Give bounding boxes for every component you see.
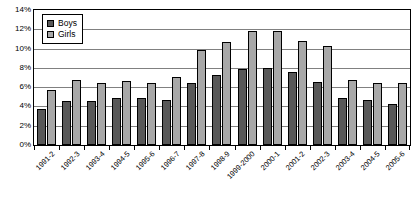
bar-girls-1997-8 xyxy=(197,50,206,145)
legend-label-girls: Girls xyxy=(58,30,75,39)
bar-group xyxy=(184,10,209,145)
y-axis-labels: 14%12%10%8%6%4%2%0% xyxy=(0,9,31,146)
bar-group xyxy=(310,10,335,145)
bar-group xyxy=(385,10,410,145)
bar-group xyxy=(285,10,310,145)
bar-boys-2004-5 xyxy=(363,100,372,145)
bar-girls-2005-6 xyxy=(398,83,407,145)
bar-group xyxy=(109,10,134,145)
bar-group xyxy=(260,10,285,145)
bar-boys-1993-4 xyxy=(87,101,96,145)
bar-girls-1998-9 xyxy=(222,42,231,145)
bar-girls-1993-4 xyxy=(97,83,106,145)
bar-group xyxy=(360,10,385,145)
bar-boys-1997-8 xyxy=(187,83,196,145)
y-axis-tick-label: 8% xyxy=(3,64,31,72)
bar-boys-2002-3 xyxy=(313,82,322,145)
bar-group xyxy=(335,10,360,145)
x-axis-labels: 1991-21992-31993-41994-51995-61996-71997… xyxy=(34,150,410,203)
bar-group xyxy=(134,10,159,145)
bar-girls-1994-5 xyxy=(122,81,131,145)
bar-group xyxy=(159,10,184,145)
bar-group xyxy=(84,10,109,145)
y-axis-tick-label: 14% xyxy=(3,6,31,14)
y-axis-tick-label: 6% xyxy=(3,83,31,91)
bar-girls-1995-6 xyxy=(147,83,156,145)
chart-legend: Boys Girls xyxy=(42,14,83,44)
bar-group xyxy=(235,10,260,145)
bar-boys-1999-2000 xyxy=(238,69,247,145)
bar-boys-1996-7 xyxy=(162,100,171,145)
bars-container xyxy=(34,10,410,145)
x-axis-tick-label: 1991-2 xyxy=(0,150,56,203)
legend-item-girls: Girls xyxy=(47,29,77,40)
bar-girls-1992-3 xyxy=(72,80,81,145)
bar-girls-1991-2 xyxy=(47,90,56,145)
bar-girls-1996-7 xyxy=(172,77,181,145)
bar-boys-2000-1 xyxy=(263,68,272,145)
bar-boys-1991-2 xyxy=(37,109,46,145)
bar-girls-2002-3 xyxy=(323,46,332,145)
bar-boys-1994-5 xyxy=(112,98,121,145)
y-axis-tick-label: 10% xyxy=(3,45,31,53)
y-axis-tick-label: 12% xyxy=(3,25,31,33)
bar-boys-1998-9 xyxy=(212,75,221,145)
bar-group xyxy=(209,10,234,145)
legend-label-boys: Boys xyxy=(58,19,77,28)
y-axis-tick-label: 2% xyxy=(3,122,31,130)
legend-swatch-girls-icon xyxy=(47,31,54,38)
legend-swatch-boys-icon xyxy=(47,20,54,27)
bar-boys-2003-4 xyxy=(338,98,347,145)
legend-item-boys: Boys xyxy=(47,18,77,29)
bar-boys-2005-6 xyxy=(388,104,397,145)
bar-girls-2000-1 xyxy=(273,31,282,145)
bar-girls-1999-2000 xyxy=(248,31,257,145)
bar-girls-2004-5 xyxy=(373,83,382,145)
bar-boys-1992-3 xyxy=(62,101,71,145)
bar-boys-1995-6 xyxy=(137,98,146,145)
y-axis-tick-label: 4% xyxy=(3,102,31,110)
bar-girls-2003-4 xyxy=(348,80,357,145)
bar-girls-2001-2 xyxy=(298,41,307,145)
y-axis-tick-label: 0% xyxy=(3,141,31,149)
bar-boys-2001-2 xyxy=(288,72,297,145)
bar-chart: 14%12%10%8%6%4%2%0% 1991-21992-31993-419… xyxy=(0,0,419,203)
